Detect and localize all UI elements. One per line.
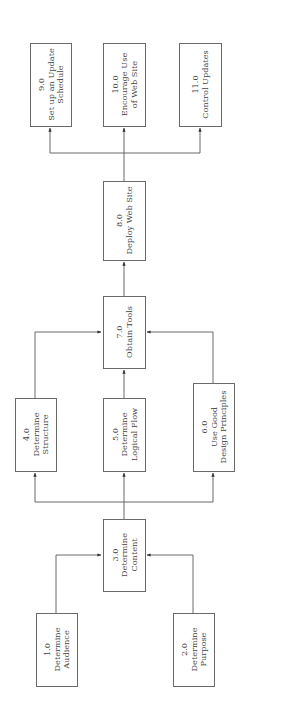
node-10-0: 10.0Encourage Useof Web Site <box>104 44 146 127</box>
node-text-line: Logical Flow <box>129 408 139 461</box>
node-number: 6.0 <box>199 420 209 433</box>
node-text-line: Purpose <box>198 632 208 666</box>
node-11-0: 11.0Control Updates <box>180 44 222 127</box>
node-text-line: Structure <box>40 414 50 454</box>
node-text-line: Content <box>129 538 139 572</box>
node-text-line: Determine <box>189 627 199 671</box>
node-7-0: 7.0Obtain Tools <box>104 297 146 369</box>
node-9-0: 9.0Set up an UpdateSchedule <box>31 44 72 127</box>
node-1-0: 1.0DetermineAudience <box>37 614 78 687</box>
edge-4-to-7 <box>35 332 101 398</box>
node-number: 3.0 <box>110 548 120 561</box>
node-text-line: Determine <box>119 533 129 577</box>
node-number: 8.0 <box>114 214 124 227</box>
node-3-0: 3.0DetermineContent <box>104 520 146 592</box>
edge-6-to-7 <box>147 332 213 383</box>
node-text-line: Determine <box>119 412 129 456</box>
edge-1-to-3 <box>56 555 101 613</box>
node-text-line: Deploy Web Site <box>124 186 134 254</box>
node-2-0: 2.0DeterminePurpose <box>174 614 215 687</box>
node-number: 10.0 <box>110 75 120 93</box>
node-5-0: 5.0DetermineLogical Flow <box>104 399 146 472</box>
edge-2-to-3 <box>147 555 193 613</box>
node-6-0: 6.0Use GoodDesign Principles <box>194 384 235 472</box>
node-text-line: Schedule <box>55 65 65 103</box>
node-number: 9.0 <box>36 78 46 91</box>
node-text-line: Use Good <box>209 407 219 447</box>
node-number: 1.0 <box>42 643 52 656</box>
node-text-line: Audience <box>61 630 71 670</box>
node-number: 7.0 <box>114 325 124 338</box>
node-number: 5.0 <box>110 428 120 441</box>
node-text-line: Determine <box>31 412 41 456</box>
node-text-line: Obtain Tools <box>124 306 134 358</box>
node-4-0: 4.0DetermineStructure <box>16 399 57 472</box>
node-text-line: Determine <box>52 627 62 671</box>
node-text-line: Set up an Update <box>46 48 56 121</box>
flowchart-canvas: 1.0DetermineAudience2.0DeterminePurpose3… <box>0 0 281 716</box>
node-text-line: Control Updates <box>200 50 210 118</box>
node-number: 4.0 <box>21 428 31 441</box>
node-number: 2.0 <box>179 643 189 656</box>
node-8-0: 8.0Deploy Web Site <box>104 182 146 261</box>
node-text-line: Design Principles <box>218 391 228 464</box>
node-text-line: of Web Site <box>129 61 139 109</box>
node-text-line: Encourage Use <box>119 53 129 117</box>
node-number: 11.0 <box>190 75 200 93</box>
